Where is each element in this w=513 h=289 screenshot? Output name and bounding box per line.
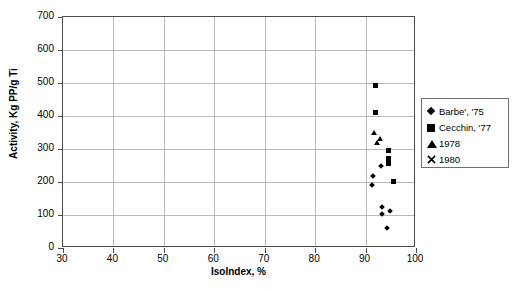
gridline-horizontal: [63, 149, 414, 150]
data-point-square: [386, 148, 391, 153]
data-point-diamond: [379, 204, 385, 210]
y-axis-tick-label: 300: [20, 143, 54, 153]
x-axis-tick-label: 30: [47, 254, 77, 264]
data-point-triangle: [371, 130, 377, 135]
y-axis-tick: [58, 50, 63, 51]
gridline-vertical: [265, 17, 266, 246]
gridline-vertical: [214, 17, 215, 246]
data-point-diamond: [384, 225, 390, 231]
x-axis-tick: [113, 248, 114, 253]
x-axis-tick-label: 90: [350, 254, 380, 264]
x-axis-tick: [164, 248, 165, 253]
x-axis-tick: [366, 248, 367, 253]
legend-item-label: Cecchin, '77: [439, 122, 491, 133]
x-axis-tick: [416, 248, 417, 253]
x-axis-tick-label: 80: [299, 254, 329, 264]
legend-item-cross: 1980: [426, 151, 508, 167]
gridline-horizontal: [63, 50, 414, 51]
x-axis-tick-label: 60: [198, 254, 228, 264]
gridline-vertical: [113, 17, 114, 246]
y-axis-tick: [58, 17, 63, 18]
x-axis-tick-label: 50: [148, 254, 178, 264]
plot-area: [62, 16, 415, 247]
data-point-diamond: [370, 174, 376, 180]
data-point-diamond: [379, 211, 385, 217]
data-point-square: [373, 110, 378, 115]
cross-marker-icon: [426, 154, 437, 165]
gridline-vertical: [164, 17, 165, 246]
y-axis-tick-label: 100: [20, 209, 54, 219]
legend-item-label: 1978: [439, 138, 460, 149]
gridline-vertical: [366, 17, 367, 246]
x-axis-title: IsoIndex, %: [0, 266, 477, 277]
data-point-triangle: [374, 140, 380, 145]
y-axis-tick-label: 200: [20, 176, 54, 186]
legend-item-square: Cecchin, '77: [426, 119, 508, 135]
y-axis-tick-label: 600: [20, 44, 54, 54]
legend-item-triangle: 1978: [426, 135, 508, 151]
x-axis-tick: [214, 248, 215, 253]
gridline-horizontal: [63, 215, 414, 216]
data-point-diamond: [387, 208, 393, 214]
data-point-diamond: [378, 163, 384, 169]
legend: Barbe', '75Cecchin, '7719781980: [421, 98, 509, 168]
x-axis-tick: [63, 248, 64, 253]
gridline-horizontal: [63, 116, 414, 117]
diamond-marker-icon: [426, 106, 437, 117]
y-axis-title: Activity, Kg PP/g Ti: [8, 29, 19, 199]
y-axis-tick-label: 500: [20, 77, 54, 87]
gridline-vertical: [315, 17, 316, 246]
x-axis-tick-label: 70: [249, 254, 279, 264]
chart-figure: Activity, Kg PP/g Ti IsoIndex, % 0100200…: [0, 0, 513, 289]
legend-item-diamond: Barbe', '75: [426, 103, 508, 119]
y-axis-tick-label: 700: [20, 11, 54, 21]
x-axis-tick: [315, 248, 316, 253]
triangle-marker-icon: [426, 138, 437, 149]
y-axis-tick: [58, 149, 63, 150]
y-axis-tick: [58, 182, 63, 183]
y-axis-tick-label: 0: [20, 242, 54, 252]
gridline-horizontal: [63, 182, 414, 183]
y-axis-tick: [58, 116, 63, 117]
data-point-square: [386, 156, 391, 161]
legend-item-label: Barbe', '75: [439, 106, 484, 117]
data-point-square: [391, 179, 396, 184]
y-axis-tick: [58, 215, 63, 216]
x-axis-tick-label: 40: [97, 254, 127, 264]
gridline-horizontal: [63, 83, 414, 84]
x-axis-tick-label: 100: [400, 254, 430, 264]
y-axis-tick-label: 400: [20, 110, 54, 120]
y-axis-tick: [58, 83, 63, 84]
legend-item-label: 1980: [439, 154, 460, 165]
data-point-square: [386, 161, 391, 166]
x-axis-tick: [265, 248, 266, 253]
square-marker-icon: [426, 122, 437, 133]
data-point-square: [373, 83, 378, 88]
